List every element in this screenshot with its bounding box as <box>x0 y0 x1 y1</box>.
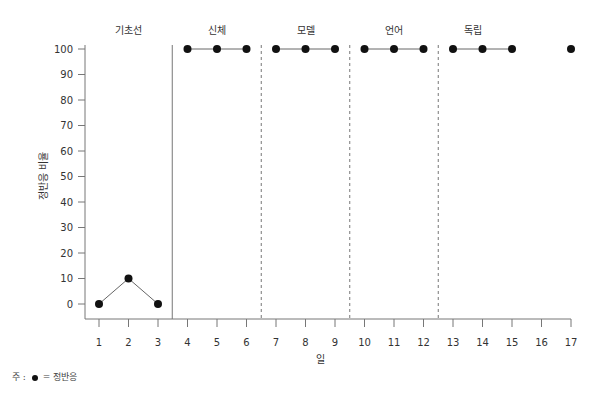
phase-label: 모델 <box>297 25 315 36</box>
data-point-marker <box>184 45 192 53</box>
x-tick-label: 4 <box>184 337 190 348</box>
x-tick-label: 6 <box>243 337 249 348</box>
phase-label: 기초선 <box>115 25 142 36</box>
y-tick-label: 80 <box>60 95 73 106</box>
x-tick-label: 9 <box>332 337 338 348</box>
x-tick-label: 13 <box>447 337 460 348</box>
y-tick-label: 50 <box>60 171 73 182</box>
legend-note: 주 : = 정반응 <box>12 370 77 383</box>
x-tick-label: 16 <box>535 337 548 348</box>
y-axis-label: 정반응 비율 <box>38 152 49 200</box>
y-tick-label: 40 <box>60 197 73 208</box>
chart-canvas: 0102030405060708090100123456789101112131… <box>0 0 609 400</box>
note-prefix: 주 : <box>12 372 26 382</box>
x-tick-label: 7 <box>273 337 279 348</box>
x-tick-label: 3 <box>155 337 161 348</box>
data-point-marker <box>331 45 339 53</box>
y-tick-label: 30 <box>60 222 73 233</box>
data-point-marker <box>479 45 487 53</box>
phase-label: 신체 <box>208 25 226 36</box>
filled-circle-marker-icon <box>32 375 38 381</box>
single-subject-design-chart: 0102030405060708090100123456789101112131… <box>0 0 609 400</box>
data-point-marker <box>420 45 428 53</box>
y-tick-label: 20 <box>60 248 73 259</box>
data-point-marker <box>390 45 398 53</box>
y-tick-label: 60 <box>60 146 73 157</box>
x-tick-label: 10 <box>358 337 371 348</box>
phase-label: 언어 <box>385 25 403 36</box>
x-tick-label: 5 <box>214 337 220 348</box>
y-tick-label: 70 <box>60 120 73 131</box>
data-point-marker <box>567 45 575 53</box>
x-tick-label: 12 <box>417 337 430 348</box>
x-axis-label: 일 <box>316 354 325 365</box>
y-tick-label: 100 <box>54 44 73 55</box>
x-tick-label: 8 <box>302 337 308 348</box>
x-tick-label: 1 <box>96 337 102 348</box>
data-point-marker <box>302 45 310 53</box>
data-point-marker <box>154 300 162 308</box>
x-tick-label: 11 <box>388 337 401 348</box>
data-point-marker <box>125 275 133 283</box>
data-point-marker <box>508 45 516 53</box>
phase-label: 독립 <box>464 24 482 36</box>
data-point-marker <box>272 45 280 53</box>
x-tick-label: 15 <box>506 337 519 348</box>
y-tick-label: 0 <box>67 299 73 310</box>
data-point-marker <box>95 300 103 308</box>
x-tick-label: 17 <box>565 337 578 348</box>
y-tick-label: 10 <box>60 273 73 284</box>
data-point-marker <box>361 45 369 53</box>
data-point-marker <box>449 45 457 53</box>
y-tick-label: 90 <box>60 69 73 80</box>
data-point-marker <box>213 45 221 53</box>
note-suffix: = 정반응 <box>43 372 77 382</box>
x-tick-label: 14 <box>476 337 489 348</box>
x-tick-label: 2 <box>125 337 131 348</box>
data-point-marker <box>243 45 251 53</box>
